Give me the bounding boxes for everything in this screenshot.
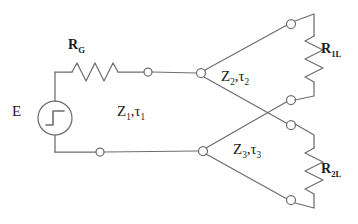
label-line-1: Z1,τ1: [117, 104, 145, 119]
label-load-1: R1L: [321, 42, 341, 56]
node-load1-bottom: [287, 96, 296, 105]
node-bottom-return: [96, 148, 104, 156]
node-load2-bottom: [287, 196, 296, 205]
source-circle: [38, 101, 72, 135]
label-load-2: R2L: [321, 162, 341, 176]
wire-z1-upper-conductor: [152, 72, 197, 73]
label-source: E: [12, 104, 21, 119]
circuit-schematic-canvas: [0, 0, 358, 224]
step-waveform-icon: [46, 111, 64, 125]
label-series-resistor: RG: [68, 38, 85, 52]
wire-load1-bottom-lead: [295, 82, 314, 100]
resistor-rg-zigzag: [72, 63, 118, 81]
wire-z1-lower-conductor: [104, 151, 199, 152]
node-load1-top: [287, 20, 296, 29]
node-load2-top: [287, 121, 296, 130]
wire-lower-to-load2-bottom: [206, 154, 287, 199]
wire-load2-top-lead: [295, 124, 314, 148]
circuit-diagram: RG E Z1,τ1 Z2,τ2 Z3,τ3 R1L R2L: [0, 0, 358, 224]
label-line-3: Z3,τ3: [233, 142, 261, 157]
wire-load1-top-lead: [295, 14, 314, 36]
node-junction-upper: [197, 69, 206, 78]
wire-upper-to-load1-top: [205, 25, 287, 70]
label-line-2: Z2,τ2: [221, 69, 249, 84]
node-rg-output: [144, 68, 152, 76]
wire-load2-bottom-lead: [295, 194, 314, 208]
